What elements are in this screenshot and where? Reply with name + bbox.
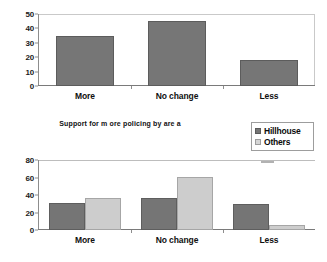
y-tick-mark	[35, 160, 38, 161]
bar-group	[131, 160, 223, 230]
gridline-artifact	[261, 161, 274, 163]
y-tick-mark	[35, 71, 38, 72]
bar[interactable]	[85, 198, 121, 230]
x-tick-label: No change	[131, 233, 223, 247]
y-tick-mark	[35, 230, 38, 231]
x-tick-mark	[223, 230, 224, 233]
legend-label-hillhouse: Hillhouse	[264, 126, 300, 136]
legend: Hillhouse Others	[251, 122, 314, 151]
x-tick-label: More	[39, 89, 131, 103]
y-tick-mark	[35, 14, 38, 15]
bar[interactable]	[233, 204, 269, 230]
bar[interactable]	[56, 36, 113, 86]
y-tick-mark	[35, 86, 38, 87]
bar[interactable]	[49, 203, 85, 230]
y-tick-mark	[35, 212, 38, 213]
y-tick-mark	[35, 195, 38, 196]
x-axis-labels-bottom: MoreNo changeLess	[39, 233, 315, 247]
bar-group	[131, 14, 223, 86]
x-tick-label: Less	[223, 233, 315, 247]
chart-caption: Support for m ore policing by are a	[0, 120, 240, 127]
y-tick-mark	[35, 28, 38, 29]
x-tick-mark	[131, 230, 132, 233]
y-tick-mark	[35, 42, 38, 43]
bar-group	[223, 14, 315, 86]
legend-swatch-icon	[255, 128, 261, 134]
x-axis-labels-top: MoreNo changeLess	[39, 89, 315, 103]
bar-group	[39, 160, 131, 230]
bars-area-bottom	[39, 160, 315, 230]
bar-group	[223, 160, 315, 230]
x-tick-mark	[223, 86, 224, 89]
x-tick-mark	[131, 86, 132, 89]
bar[interactable]	[177, 177, 213, 230]
x-tick-label: No change	[131, 89, 223, 103]
x-tick-label: More	[39, 233, 131, 247]
bar-group	[39, 14, 131, 86]
legend-item-others[interactable]: Others	[255, 137, 310, 147]
legend-item-hillhouse[interactable]: Hillhouse	[255, 126, 310, 136]
bars-area-top	[39, 14, 315, 86]
bar[interactable]	[240, 60, 297, 86]
x-tick-label: Less	[223, 89, 315, 103]
legend-label-others: Others	[264, 137, 290, 147]
chart-bottom: 020406080 MoreNo changeLess	[12, 160, 315, 246]
bar[interactable]	[141, 198, 177, 230]
bar[interactable]	[269, 225, 305, 230]
y-tick-mark	[35, 57, 38, 58]
bar[interactable]	[148, 21, 205, 86]
legend-swatch-icon	[255, 139, 261, 145]
chart-top: 01020304050 MoreNo changeLess	[12, 14, 315, 102]
y-tick-mark	[35, 177, 38, 178]
